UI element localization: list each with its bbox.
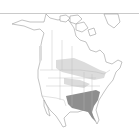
range-light-pacific [39, 46, 42, 62]
arctic-island [76, 22, 88, 32]
range-map [0, 0, 139, 135]
greenland [104, 14, 120, 28]
arctic-island [88, 28, 96, 36]
